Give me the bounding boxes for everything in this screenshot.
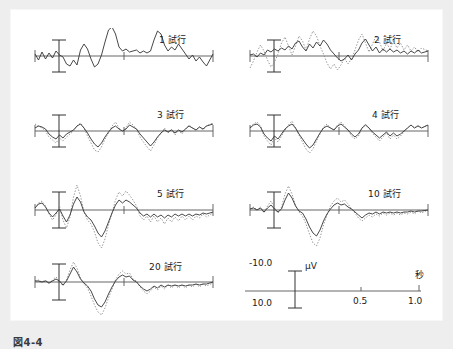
time-unit-label: 秒: [415, 268, 424, 281]
calibration-legend: -10.0 10.0 μV 0.5 1.0 秒: [243, 258, 433, 318]
trace-solid: [35, 197, 213, 237]
panel-3: 3 試行: [29, 105, 219, 187]
amplitude-calibration-bar: [288, 271, 302, 308]
panel-10-label: 10 試行: [368, 187, 401, 200]
panel-5-plot: [29, 184, 219, 269]
trace-dotted: [250, 121, 428, 153]
panel-2-label: 2 試行: [374, 33, 401, 46]
panel-10: 10 試行: [244, 184, 434, 269]
panel-1-label: 1 試行: [159, 33, 186, 46]
figure-caption: 図4-4: [13, 334, 43, 349]
panel-2: 2 試行: [244, 28, 434, 108]
panel-5: 5 試行: [29, 184, 219, 269]
panel-3-plot: [29, 105, 219, 187]
panel-20: 20 試行: [29, 258, 219, 320]
time-tick-half-label: 0.5: [353, 296, 367, 306]
panel-grid: 1 試行 2 試行: [11, 10, 442, 320]
time-tick-one-label: 1.0: [408, 296, 422, 306]
panel-2-plot: [244, 28, 434, 108]
figure-root: 1 試行 2 試行: [0, 0, 453, 349]
panel-10-plot: [244, 184, 434, 269]
trace-dotted: [35, 262, 213, 315]
amplitude-unit-label: μV: [305, 261, 317, 271]
panel-20-label: 20 試行: [149, 260, 182, 273]
panel-4-label: 4 試行: [372, 108, 399, 121]
panel-1: 1 試行: [29, 28, 219, 108]
panel-3-label: 3 試行: [157, 108, 184, 121]
panel-5-label: 5 試行: [157, 187, 184, 200]
amplitude-bottom-label: 10.0: [252, 298, 272, 308]
panel-1-plot: [29, 28, 219, 108]
panel-4-plot: [244, 105, 434, 187]
panel-20-plot: [29, 258, 219, 320]
figure-plate: 1 試行 2 試行: [11, 10, 442, 320]
trace-dotted: [35, 185, 213, 248]
panel-4: 4 試行: [244, 105, 434, 187]
amplitude-top-label: -10.0: [249, 258, 272, 268]
